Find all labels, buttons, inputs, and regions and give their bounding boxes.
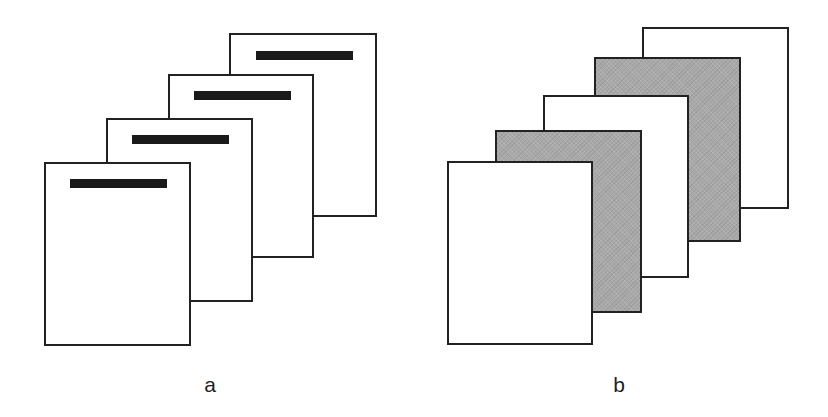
title-bar xyxy=(132,135,229,144)
title-bar xyxy=(70,179,167,188)
title-bar xyxy=(256,51,353,60)
group-a-label: a xyxy=(204,374,216,395)
title-bar xyxy=(194,91,291,100)
group-b-label: b xyxy=(613,374,625,395)
diagram-canvas: a b xyxy=(0,0,828,417)
group-a-page-1 xyxy=(44,162,191,346)
group-b-page-1 xyxy=(447,161,593,345)
